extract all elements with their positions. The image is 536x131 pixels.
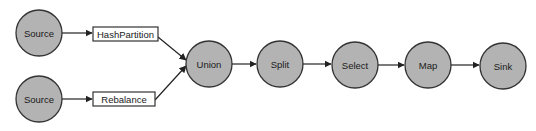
node-hashpartition-label: HashPartition bbox=[97, 29, 154, 40]
node-source-2: Source bbox=[16, 76, 62, 122]
node-select-label: Select bbox=[342, 60, 369, 71]
node-map-label: Map bbox=[419, 60, 437, 71]
node-split: Split bbox=[257, 41, 303, 87]
edge-hashpartition-union bbox=[158, 37, 186, 60]
node-source-2-label: Source bbox=[24, 94, 54, 105]
node-hashpartition: HashPartition bbox=[93, 27, 158, 41]
node-map: Map bbox=[405, 42, 451, 88]
node-source-1-label: Source bbox=[24, 28, 54, 39]
node-rebalance-label: Rebalance bbox=[101, 94, 146, 105]
node-split-label: Split bbox=[271, 59, 290, 70]
node-sink-label: Sink bbox=[494, 61, 513, 72]
dataflow-diagram: Source Source HashPartition Rebalance Un… bbox=[0, 0, 536, 131]
node-union: Union bbox=[186, 41, 232, 87]
node-source-1: Source bbox=[16, 10, 62, 56]
node-rebalance: Rebalance bbox=[93, 92, 155, 106]
node-union-label: Union bbox=[197, 59, 222, 70]
node-sink: Sink bbox=[480, 43, 526, 89]
edge-rebalance-union bbox=[155, 66, 186, 100]
node-select: Select bbox=[332, 42, 378, 88]
